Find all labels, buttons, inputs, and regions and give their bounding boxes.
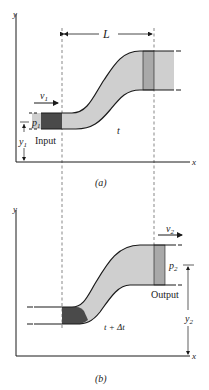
pressure-label-b: p2 — [168, 260, 178, 273]
x-axis-label-a: x — [191, 157, 196, 167]
length-label: L — [102, 27, 110, 41]
caption-b: (b) — [95, 373, 107, 385]
figure-a: y x L v1 p1 y1 Input t (a) — [12, 9, 196, 189]
y-axis-label-a: y — [12, 9, 17, 19]
output-slab — [154, 245, 165, 285]
height-label-a: y1 — [18, 136, 27, 149]
caption-a: (a) — [95, 177, 107, 189]
time-label-a: t — [117, 125, 120, 136]
input-slab — [41, 113, 62, 129]
output-slab-a — [143, 51, 154, 90]
velocity-label-b: v2 — [166, 223, 174, 236]
bernoulli-diagram: y x L v1 p1 y1 Input t (a) — [0, 0, 209, 390]
input-label: Input — [35, 135, 56, 146]
height-label-b: y2 — [184, 313, 193, 326]
time-label-b: t + Δt — [104, 322, 125, 332]
x-axis-label-b: x — [191, 351, 196, 361]
velocity-label-a: v1 — [40, 90, 48, 103]
output-label: Output — [151, 289, 179, 300]
y-axis-label-b: y — [12, 204, 17, 214]
figure-b: y x v2 p2 y2 Output t + Δt (b) — [12, 204, 196, 385]
